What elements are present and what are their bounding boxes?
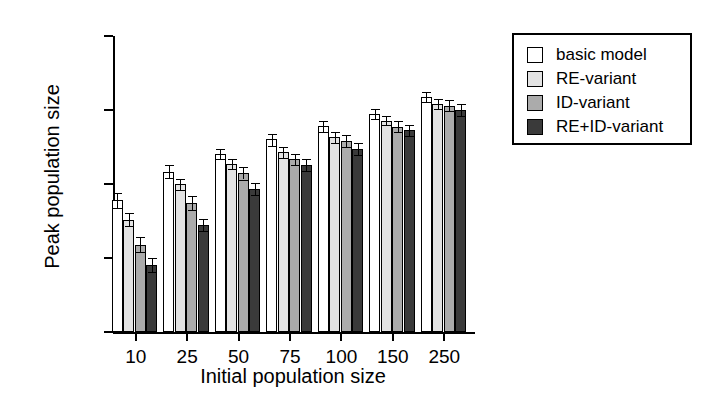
- error-bar-cap: [148, 272, 157, 273]
- error-bar-cap: [434, 99, 443, 100]
- bar-group: [369, 36, 415, 332]
- error-bar-cap: [291, 154, 300, 155]
- legend-item: RE+ID-variant: [527, 116, 663, 138]
- x-axis-tick: [135, 332, 137, 341]
- error-bar: [295, 154, 296, 166]
- error-bar-cap: [113, 208, 122, 209]
- error-bar: [169, 165, 170, 178]
- error-bar: [243, 167, 244, 179]
- error-bar-cap: [319, 121, 328, 122]
- x-axis-tick: [186, 332, 188, 341]
- error-bar-cap: [165, 178, 174, 179]
- bar: [112, 200, 123, 332]
- bar: [329, 137, 340, 332]
- error-bar-cap: [342, 135, 351, 136]
- bar: [455, 110, 466, 332]
- error-bar: [323, 121, 324, 133]
- error-bar: [398, 121, 399, 132]
- legend-swatch-icon: [527, 71, 543, 87]
- error-bar-cap: [371, 109, 380, 110]
- error-bar-cap: [382, 116, 391, 117]
- error-bar-cap: [176, 179, 185, 180]
- legend-item: ID-variant: [527, 92, 630, 114]
- error-bar-cap: [216, 159, 225, 160]
- error-bar-cap: [251, 183, 260, 184]
- error-bar: [461, 104, 462, 116]
- error-bar: [203, 219, 204, 232]
- bar-group: [163, 36, 209, 332]
- error-bar: [140, 237, 141, 252]
- legend-label: RE-variant: [556, 69, 636, 89]
- error-bar: [375, 109, 376, 118]
- error-bar-cap: [405, 136, 414, 137]
- legend-swatch-icon: [527, 119, 543, 135]
- bar: [318, 126, 329, 332]
- error-bar-cap: [239, 180, 248, 181]
- error-bar: [255, 183, 256, 195]
- error-bar-cap: [457, 116, 466, 117]
- x-axis-line: [113, 332, 475, 334]
- error-bar-cap: [457, 104, 466, 105]
- bar: [215, 154, 226, 332]
- error-bar-cap: [302, 159, 311, 160]
- error-bar-cap: [199, 219, 208, 220]
- legend-label: basic model: [556, 45, 647, 65]
- error-bar-cap: [382, 125, 391, 126]
- error-bar-cap: [125, 213, 134, 214]
- error-bar-cap: [188, 196, 197, 197]
- bar: [226, 164, 237, 332]
- x-axis-tick: [340, 332, 342, 341]
- x-axis-tick: [392, 332, 394, 341]
- bar: [404, 130, 415, 332]
- error-bar-cap: [279, 158, 288, 159]
- error-bar: [426, 92, 427, 102]
- legend-label: ID-variant: [556, 93, 630, 113]
- bar: [163, 172, 174, 332]
- error-bar-cap: [342, 147, 351, 148]
- error-bar: [346, 135, 347, 147]
- error-bar-cap: [354, 155, 363, 156]
- error-bar-cap: [113, 193, 122, 194]
- bar: [198, 225, 209, 332]
- bar: [432, 104, 443, 332]
- error-bar-cap: [434, 109, 443, 110]
- error-bar-cap: [331, 143, 340, 144]
- bar: [249, 189, 260, 332]
- bar: [341, 141, 352, 332]
- error-bar: [438, 99, 439, 109]
- error-bar-cap: [405, 125, 414, 126]
- bar: [352, 149, 363, 332]
- legend-swatch-icon: [527, 47, 543, 63]
- y-axis-title: Peak population size: [41, 47, 64, 307]
- figure-bar-chart: Peak population size 100001000100101 102…: [0, 0, 711, 411]
- error-bar-cap: [239, 167, 248, 168]
- error-bar-cap: [199, 231, 208, 232]
- bar-group: [215, 36, 261, 332]
- bar: [278, 152, 289, 332]
- legend-swatch-icon: [527, 95, 543, 111]
- error-bar: [117, 193, 118, 208]
- error-bar: [409, 125, 410, 136]
- error-bar-cap: [394, 121, 403, 122]
- bar: [186, 203, 197, 332]
- error-bar: [449, 100, 450, 111]
- legend-item: RE-variant: [527, 68, 636, 90]
- bar: [175, 184, 186, 332]
- error-bar-cap: [136, 237, 145, 238]
- x-axis-title: Initial population size: [113, 365, 473, 388]
- legend-item: basic model: [527, 44, 647, 66]
- error-bar: [386, 116, 387, 126]
- error-bar-cap: [251, 195, 260, 196]
- error-bar-cap: [188, 210, 197, 211]
- bar-group: [266, 36, 312, 332]
- bar: [146, 265, 157, 332]
- bar: [238, 173, 249, 332]
- error-bar-cap: [354, 143, 363, 144]
- x-axis-tick: [238, 332, 240, 341]
- error-bar-cap: [268, 134, 277, 135]
- error-bar-cap: [394, 132, 403, 133]
- error-bar-cap: [228, 169, 237, 170]
- error-bar: [180, 179, 181, 190]
- bar: [301, 165, 312, 332]
- error-bar-cap: [279, 147, 288, 148]
